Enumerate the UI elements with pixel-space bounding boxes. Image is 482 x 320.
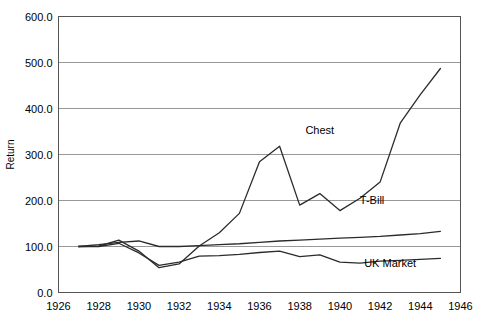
x-tick-label: 1928 (86, 300, 110, 312)
series-labels: ChestT-BillUK Market (305, 124, 416, 269)
y-tick-label: 200.0 (25, 195, 53, 207)
series-label-uk-market: UK Market (364, 257, 416, 269)
series-label-t-bill: T-Bill (360, 194, 384, 206)
y-tick-label: 300.0 (25, 149, 53, 161)
return-line-chart: 0.0100.0200.0300.0400.0500.0600.0 192619… (0, 0, 482, 320)
series-lines (79, 68, 441, 267)
y-axis-title: Return (5, 139, 16, 169)
series-line-t-bill (79, 231, 441, 246)
x-tick-label: 1934 (207, 300, 231, 312)
x-tick-label: 1944 (408, 300, 432, 312)
series-label-chest: Chest (305, 124, 334, 136)
x-tick-label: 1936 (247, 300, 271, 312)
y-tick-label: 500.0 (25, 57, 53, 69)
y-tick-label: 400.0 (25, 103, 53, 115)
x-tick-label: 1942 (368, 300, 392, 312)
x-tick-label: 1940 (328, 300, 352, 312)
x-tick-label: 1930 (127, 300, 151, 312)
y-tick-label: 0.0 (37, 287, 52, 299)
x-tick-label: 1938 (287, 300, 311, 312)
y-axis-tick-labels: 0.0100.0200.0300.0400.0500.0600.0 (25, 11, 53, 299)
chart-container: 0.0100.0200.0300.0400.0500.0600.0 192619… (0, 0, 482, 320)
y-tick-label: 600.0 (25, 11, 53, 23)
x-tick-label: 1946 (448, 300, 472, 312)
gridlines (59, 63, 461, 247)
y-tick-label: 100.0 (25, 241, 53, 253)
x-tick-label: 1932 (167, 300, 191, 312)
x-tick-label: 1926 (46, 300, 70, 312)
x-axis-tick-labels: 1926192819301932193419361938194019421944… (46, 300, 472, 312)
series-line-chest (79, 68, 441, 267)
